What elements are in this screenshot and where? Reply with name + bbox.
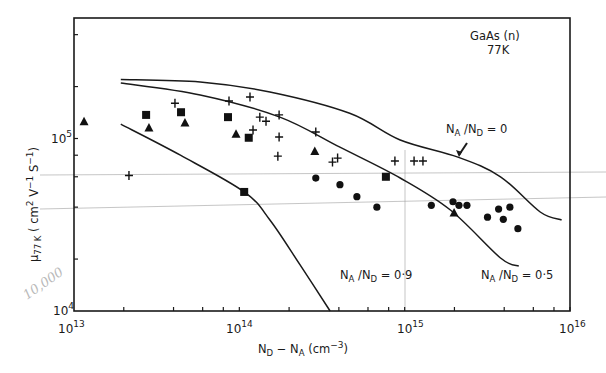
circle-marker: [495, 205, 502, 212]
plus-marker: [246, 93, 254, 102]
curve-label-0: NA /ND = 0: [446, 122, 507, 138]
plus-marker: [419, 157, 427, 166]
x-tick-label-1e14: 1014: [226, 319, 253, 336]
plus-marker: [334, 154, 342, 163]
triangle-marker: [232, 129, 241, 138]
plus-marker: [328, 158, 336, 167]
plus-marker: [274, 152, 282, 161]
circle-marker: [484, 214, 491, 221]
square-marker: [245, 134, 253, 142]
circle-marker: [373, 204, 380, 211]
circle-marker: [506, 204, 513, 211]
triangle-marker: [144, 123, 153, 131]
circle-marker: [455, 202, 462, 209]
circle-marker: [353, 193, 360, 200]
circle-marker: [336, 181, 343, 188]
triangle-marker: [450, 208, 459, 217]
y-tick-label-1e5: 105: [51, 129, 72, 146]
plus-marker: [275, 133, 283, 142]
plus-marker: [249, 126, 257, 135]
scan-artifact-line: [40, 197, 606, 209]
circle-marker: [463, 202, 470, 209]
circle-marker: [312, 174, 319, 181]
circle-marker: [500, 216, 507, 223]
square-marker: [177, 108, 185, 116]
triangle-marker: [180, 118, 189, 127]
y-axis-title: μ77 K ( cm2 V−1 S−1): [25, 147, 43, 262]
x-tick-label-1e16: 1016: [559, 319, 586, 336]
material-label: GaAs (n): [470, 29, 520, 43]
circle-marker: [449, 198, 456, 205]
y-tick-label-1e4: 104: [53, 301, 74, 318]
plus-marker: [171, 99, 179, 108]
plus-marker: [125, 171, 133, 180]
plus-marker: [262, 117, 270, 126]
plus-marker: [410, 157, 418, 166]
x-tick-label-1e15: 1015: [397, 319, 424, 336]
plus-marker: [391, 157, 399, 166]
curve-na-nd-0-9: [121, 124, 330, 311]
circle-marker: [428, 202, 435, 209]
y-tick-labels: 104 105: [51, 129, 74, 318]
plus-marker: [225, 96, 233, 105]
square-marker: [382, 173, 390, 181]
scan-artifacts: [40, 150, 606, 311]
curve-label-0-5: NA /ND = 0·5: [481, 268, 553, 284]
triangle-marker: [310, 147, 319, 156]
x-tick-label-1e13: 1013: [58, 319, 85, 336]
curve-na-nd-0: [121, 79, 562, 220]
data-markers: [80, 93, 522, 233]
x-axis-title: ND − NA (cm−3): [258, 340, 348, 358]
handwritten-note: 10,000: [20, 264, 66, 302]
plus-marker: [256, 113, 264, 122]
square-marker: [142, 111, 150, 119]
scan-artifact-line: [40, 172, 606, 175]
x-tick-labels: 1013 1014 1015 1016: [58, 319, 586, 336]
mobility-chart: 1013 1014 1015 1016 104 105 10,000 ND − …: [0, 0, 606, 373]
square-marker: [240, 188, 248, 196]
square-marker: [224, 113, 232, 121]
circle-marker: [514, 225, 521, 232]
triangle-marker: [80, 117, 89, 126]
curve-label-0-9: NA /ND = 0·9: [340, 268, 412, 284]
temperature-label: 77K: [487, 43, 510, 57]
